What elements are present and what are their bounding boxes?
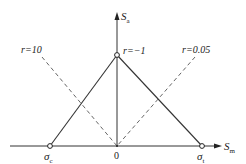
x-axis-arrow-icon [214,144,222,149]
diagram-canvas [0,0,246,164]
y-axis-arrow-icon [115,12,120,20]
sigma-t-label: σt [197,151,204,162]
ray-r005-label: r=0.05 [182,45,210,55]
sigma-c-subscript: c [49,157,52,164]
ray-r005 [117,57,195,146]
apex-point-icon [115,53,120,58]
haigh-diagram: Sa Sm r=−1 r=10 r=0.05 σc 0 σt [0,0,246,164]
x-axis-subscript: m [230,147,235,155]
sigma-c-label: σc [44,151,53,162]
origin-point-icon [116,145,118,147]
limit-line-right [117,55,202,146]
y-axis-subscript: a [127,17,130,25]
origin-label: 0 [114,151,119,161]
y-axis-symbol: S [121,10,127,22]
sigma-t-point-icon [200,144,205,149]
apex-label: r=−1 [123,46,145,56]
x-axis-symbol: S [224,140,230,152]
sigma-c-point-icon [48,144,53,149]
ray-r10-label: r=10 [21,45,42,55]
limit-line-left [50,55,117,146]
y-axis-label: Sa [121,11,130,22]
x-axis-label: Sm [224,141,235,152]
